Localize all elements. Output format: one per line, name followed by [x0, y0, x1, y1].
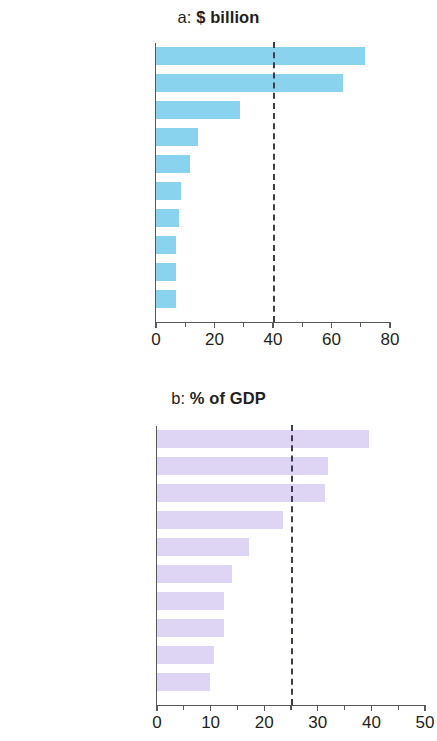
bar — [156, 128, 198, 146]
x-axis-minor-tick — [360, 323, 361, 327]
x-axis-tick — [214, 323, 215, 328]
bar — [156, 290, 176, 308]
x-axis-tick-label: 10 — [201, 713, 220, 733]
bar — [156, 47, 365, 65]
x-axis-tick — [371, 706, 372, 711]
x-axis-minor-tick — [237, 706, 238, 710]
bar — [156, 263, 176, 281]
x-axis-minor-tick — [185, 323, 186, 327]
x-axis-minor-tick — [344, 706, 345, 710]
bar — [156, 209, 179, 227]
x-axis-tick-label: 0 — [151, 330, 160, 350]
bar — [156, 182, 181, 200]
bar — [157, 673, 210, 691]
bar — [157, 619, 224, 637]
bar — [157, 646, 214, 664]
reference-line — [291, 425, 293, 705]
x-axis-tick-label: 50 — [416, 713, 435, 733]
x-axis-tick — [272, 323, 273, 328]
x-axis-minor-tick — [183, 706, 184, 710]
panel-a-plot-area: 020406080 — [0, 0, 437, 370]
bar — [157, 430, 369, 448]
chart-panel-b: b: % of GDP TajikistanNepalKyrgyz Republ… — [0, 371, 437, 741]
y-axis-line — [156, 426, 157, 705]
bar — [156, 155, 190, 173]
x-axis-tick-label: 40 — [362, 713, 381, 733]
x-axis-tick — [331, 323, 332, 328]
bar — [157, 457, 328, 475]
bar — [156, 236, 176, 254]
x-axis-tick-label: 20 — [205, 330, 224, 350]
x-axis-tick-label: 0 — [152, 713, 161, 733]
x-axis-tick-label: 40 — [264, 330, 283, 350]
x-axis-tick — [155, 323, 156, 328]
x-axis-tick — [156, 706, 157, 711]
x-axis-minor-tick — [243, 323, 244, 327]
x-axis-tick — [210, 706, 211, 711]
chart-panel-a: a: $ billion IndiaPRCPhilippinesBanglade… — [0, 0, 437, 370]
x-axis-tick-label: 20 — [255, 713, 274, 733]
x-axis-tick-label: 30 — [308, 713, 327, 733]
x-axis-tick — [264, 706, 265, 711]
x-axis-minor-tick — [398, 706, 399, 710]
reference-line — [273, 42, 275, 322]
x-axis-minor-tick — [290, 706, 291, 710]
x-axis-tick — [389, 323, 390, 328]
bar — [156, 74, 343, 92]
x-axis-minor-tick — [302, 323, 303, 327]
bar — [157, 484, 325, 502]
bar — [157, 592, 224, 610]
x-axis-tick — [317, 706, 318, 711]
bar — [156, 101, 240, 119]
bar — [157, 565, 232, 583]
bar — [157, 511, 283, 529]
x-axis-tick — [424, 706, 425, 711]
bar — [157, 538, 249, 556]
y-axis-line — [155, 43, 156, 322]
x-axis-tick-label: 60 — [322, 330, 341, 350]
x-axis-tick-label: 80 — [381, 330, 400, 350]
panel-b-plot-area: 01020304050 — [0, 371, 437, 741]
